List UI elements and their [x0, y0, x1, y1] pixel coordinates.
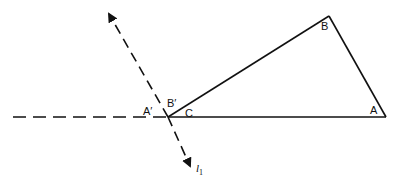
line-l1: [109, 14, 190, 166]
side-cb: [168, 16, 329, 117]
label-b-prime: B′: [167, 97, 176, 109]
label-l1: l1: [196, 162, 203, 177]
label-a: A: [370, 104, 378, 116]
l1-lower-arrow: [168, 117, 190, 166]
triangle-abc: [168, 16, 386, 117]
side-ba: [329, 16, 386, 117]
label-b: B: [321, 20, 328, 32]
label-c: C: [185, 107, 193, 119]
label-l1-subscript: 1: [199, 168, 203, 177]
geometry-diagram: B A C A′ B′ l1: [0, 0, 396, 187]
l1-upper-arrow: [109, 14, 168, 117]
label-a-prime: A′: [143, 105, 152, 117]
